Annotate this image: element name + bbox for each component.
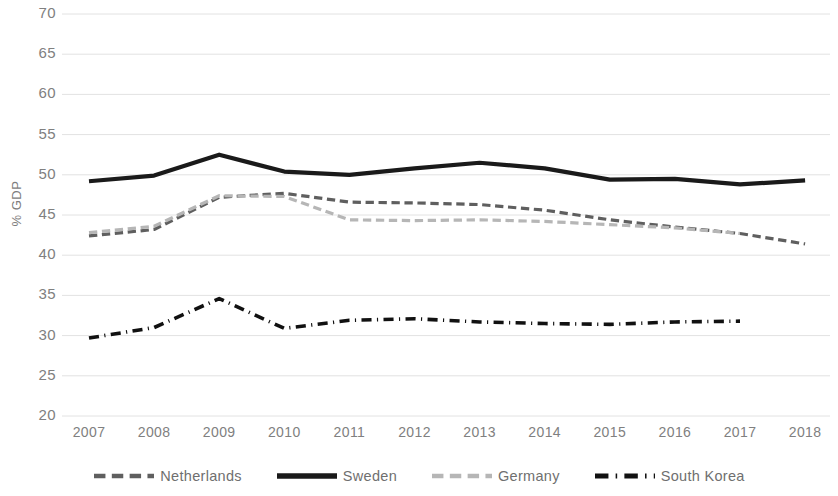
x-tick-label: 2007 bbox=[59, 424, 119, 440]
dashdot-line-icon bbox=[594, 469, 656, 483]
x-tick-label: 2012 bbox=[385, 424, 445, 440]
legend-label: South Korea bbox=[661, 468, 745, 484]
dashed-light-line-icon bbox=[431, 469, 493, 483]
legend-label: Sweden bbox=[343, 468, 397, 484]
legend-item-netherlands[interactable]: Netherlands bbox=[93, 468, 242, 484]
series-line-south-korea bbox=[89, 299, 740, 338]
legend-item-sweden[interactable]: Sweden bbox=[276, 468, 397, 484]
x-tick-label: 2017 bbox=[710, 424, 770, 440]
line-chart: % GDP 7065605550454035302520 20072008200… bbox=[0, 0, 838, 496]
x-tick-label: 2008 bbox=[124, 424, 184, 440]
x-tick-label: 2015 bbox=[580, 424, 640, 440]
series-line-sweden bbox=[89, 155, 805, 185]
x-tick-label: 2014 bbox=[515, 424, 575, 440]
series-line-netherlands bbox=[89, 193, 805, 244]
legend-label: Netherlands bbox=[160, 468, 242, 484]
solid-line-icon bbox=[276, 469, 338, 483]
x-tick-label: 2009 bbox=[189, 424, 249, 440]
x-tick-label: 2018 bbox=[775, 424, 835, 440]
legend-label: Germany bbox=[498, 468, 560, 484]
x-tick-label: 2010 bbox=[254, 424, 314, 440]
x-tick-label: 2016 bbox=[645, 424, 705, 440]
x-tick-label: 2013 bbox=[450, 424, 510, 440]
dashed-line-icon bbox=[93, 469, 155, 483]
legend-item-germany[interactable]: Germany bbox=[431, 468, 560, 484]
plot-area bbox=[0, 0, 838, 496]
x-tick-label: 2011 bbox=[319, 424, 379, 440]
chart-legend: NetherlandsSwedenGermanySouth Korea bbox=[0, 468, 838, 484]
legend-item-south-korea[interactable]: South Korea bbox=[594, 468, 745, 484]
